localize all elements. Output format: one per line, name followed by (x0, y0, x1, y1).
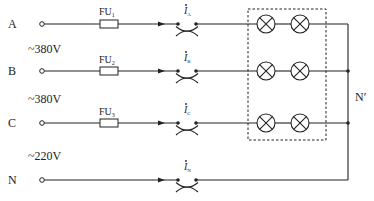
lamp-icon (257, 114, 275, 132)
lamp-icon (257, 15, 275, 33)
voltage-label-bc: ~380V (28, 92, 61, 106)
line-label-n: N (8, 173, 17, 187)
current-transformer-icon (176, 22, 198, 36)
fuse-icon (100, 67, 118, 75)
fuse-icon (100, 20, 118, 28)
voltage-label-cn: ~220V (28, 149, 61, 163)
line-label-a: A (8, 17, 17, 31)
arrow-icon (158, 22, 165, 27)
line-c: C FU3 IC (8, 103, 348, 135)
lamp-icon (291, 114, 309, 132)
lamp-icon (291, 15, 309, 33)
voltage-label-ab: ~380V (28, 42, 61, 56)
circuit-diagram: N′ A FU1 IA ~380V B FU2 IB ~380V (0, 0, 374, 201)
lamp-icon (291, 62, 309, 80)
line-a: A FU1 IA (8, 4, 348, 36)
terminal-icon (40, 121, 45, 126)
fuse-label-2: FU2 (99, 54, 115, 66)
current-transformer-icon (176, 69, 198, 83)
arrow-icon (158, 69, 165, 74)
current-transformer-icon (176, 121, 198, 135)
fuse-icon (100, 119, 118, 127)
terminal-icon (40, 178, 45, 183)
line-label-c: C (8, 116, 16, 130)
terminal-icon (40, 22, 45, 27)
terminal-icon (40, 69, 45, 74)
neutral-point-label: N′ (355, 90, 367, 104)
current-label-a: IA (183, 5, 191, 17)
current-label-c: IC (183, 104, 191, 116)
fuse-label-3: FU3 (99, 106, 115, 118)
current-label-n: IN (183, 161, 191, 173)
arrow-icon (158, 178, 165, 183)
line-label-b: B (8, 64, 16, 78)
fuse-label-1: FU1 (99, 6, 115, 18)
lamp-icon (257, 62, 275, 80)
current-transformer-icon (176, 178, 198, 192)
arrow-icon (158, 121, 165, 126)
line-n: N IN (8, 160, 348, 192)
current-label-b: IB (183, 52, 191, 64)
